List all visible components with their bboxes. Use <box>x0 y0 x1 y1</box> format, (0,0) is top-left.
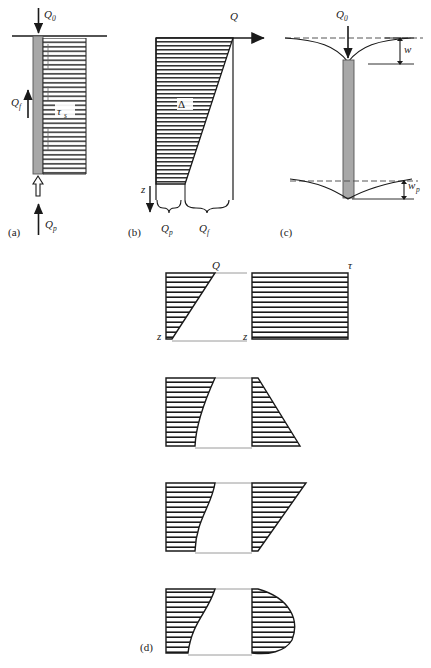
shaft-load-label-a: Q <box>11 96 19 108</box>
row4-left-shape-d <box>166 589 215 653</box>
panel-d-row-4 <box>166 589 295 655</box>
top-load-sub-a: 0 <box>52 14 56 23</box>
settlement-base-sub-c: p <box>415 185 420 194</box>
top-load-label-a: Q <box>44 8 52 20</box>
panel-a: Q 0 τ s Q f Q p (a) <box>8 8 107 239</box>
brace-left-sub-b: p <box>168 228 173 237</box>
panel-c: Q 0 w w p (c) <box>280 8 423 239</box>
panel-d-row-2 <box>166 378 300 448</box>
row3-right-shape-d <box>252 483 306 551</box>
row3-left-shape-d <box>166 483 215 551</box>
pile-shaft-a <box>33 36 43 174</box>
settlement-top-label-c: w <box>404 43 412 55</box>
brace-right-b <box>185 200 229 213</box>
load-distribution-area-b <box>156 38 233 184</box>
area-label-b: Δ <box>178 98 185 110</box>
brace-left-b <box>157 200 181 213</box>
base-hollow-arrow-a <box>33 176 43 196</box>
brace-right-label-b: Q <box>199 222 207 234</box>
top-load-label-c: Q <box>336 8 344 20</box>
base-load-label-a: Q <box>45 218 53 230</box>
z-axis-label-b: z <box>140 183 146 195</box>
panel-label-b: (b) <box>128 226 141 239</box>
row4-right-shape-d <box>252 589 295 654</box>
z-axis-label-left-d: z <box>156 330 162 342</box>
panel-b: Q Δ z Q p Q f (b) <box>128 10 264 239</box>
panel-label-c: (c) <box>280 226 293 239</box>
tau-axis-label-d: τ <box>348 259 353 271</box>
row1-right-shape-d <box>252 273 348 339</box>
row1-left-shape-d <box>166 273 215 339</box>
panel-d: Q τ z z (d) <box>140 259 353 655</box>
brace-right-sub-b: f <box>207 228 210 237</box>
shaft-load-sub-a: f <box>19 102 22 111</box>
z-axis-label-right-d: z <box>242 330 248 342</box>
shear-sub-a: s <box>64 111 67 120</box>
q-axis-label-b: Q <box>230 10 238 22</box>
row2-left-shape-d <box>166 378 215 446</box>
panel-label-a: (a) <box>8 226 21 239</box>
panel-label-d: (d) <box>140 641 153 654</box>
panel-d-row-1: Q τ z z <box>156 259 353 342</box>
base-load-sub-a: p <box>52 224 57 233</box>
pile-shaft-c <box>343 60 354 198</box>
figure-root: Q 0 τ s Q f Q p (a) Q <box>0 0 431 668</box>
row2-right-shape-d <box>252 378 300 446</box>
settlement-base-label-c: w <box>408 179 416 191</box>
figure-svg: Q 0 τ s Q f Q p (a) Q <box>0 0 431 668</box>
panel-d-row-3 <box>166 483 306 553</box>
q-axis-label-d: Q <box>212 259 220 271</box>
top-load-sub-c: 0 <box>344 14 348 23</box>
brace-left-label-b: Q <box>161 222 169 234</box>
